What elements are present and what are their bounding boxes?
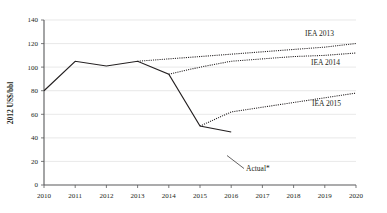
- series-label-iea-2015: IEA 2015: [312, 99, 341, 108]
- y-tick-label-0: 0: [35, 181, 39, 189]
- y-tick-label-60: 60: [31, 111, 39, 119]
- series-label-actual: Actual*: [246, 164, 270, 173]
- x-tick-label-2013: 2013: [131, 192, 146, 200]
- x-tick-label-2011: 2011: [68, 192, 82, 200]
- x-tick-label-2010: 2010: [37, 192, 52, 200]
- x-tick-label-2018: 2018: [287, 192, 302, 200]
- x-tick-label-2015: 2015: [193, 192, 208, 200]
- chart-canvas: 140 120 100 80 60 40 20 0 2010 2011 2012…: [0, 0, 387, 213]
- y-tick-label-100: 100: [28, 64, 39, 72]
- x-tick-label-2014: 2014: [162, 192, 177, 200]
- y-axis-title: 2012 US$/bbl: [6, 82, 15, 125]
- series-label-iea-2013: IEA 2013: [305, 29, 334, 38]
- x-tick-label-2019: 2019: [318, 192, 333, 200]
- x-tick-label-2012: 2012: [99, 192, 114, 200]
- y-tick-label-20: 20: [31, 158, 39, 166]
- series-label-iea-2014: IEA 2014: [311, 58, 340, 67]
- y-tick-label-40: 40: [31, 134, 39, 142]
- y-tick-label-140: 140: [28, 16, 39, 24]
- x-tick-label-2017: 2017: [255, 192, 270, 200]
- y-tick-label-80: 80: [31, 87, 39, 95]
- y-tick-label-120: 120: [28, 40, 39, 48]
- x-tick-label-2016: 2016: [224, 192, 239, 200]
- oil-price-forecast-chart: 140 120 100 80 60 40 20 0 2010 2011 2012…: [0, 0, 387, 213]
- x-tick-label-2020: 2020: [349, 192, 364, 200]
